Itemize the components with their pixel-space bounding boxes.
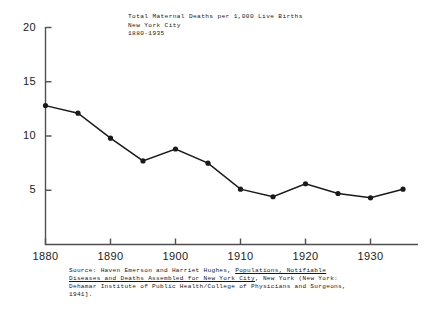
data-point-marker [303, 181, 308, 186]
source-title-part-2: Diseases and Deaths Assembled for New Yo… [69, 275, 255, 282]
source-note: Source: Haven Emerson and Harriet Hughes… [69, 267, 346, 299]
data-point-marker [400, 187, 405, 192]
y-tick-label: 15 [8, 75, 36, 87]
x-tick-label: 1880 [19, 250, 73, 262]
data-point-marker [270, 194, 275, 199]
source-note-line-1: Source: Haven Emerson and Harriet Hughes… [69, 267, 346, 275]
x-tick-label: 1930 [344, 250, 398, 262]
data-point-marker [238, 187, 243, 192]
source-title-part-1: Populations, Notifiable [235, 267, 326, 274]
y-tick-label: 10 [8, 129, 36, 141]
data-point-marker [108, 136, 113, 141]
y-tick-label: 5 [8, 183, 36, 195]
data-point-marker [173, 146, 178, 151]
source-note-line-4: 1941]. [69, 291, 346, 299]
data-point-marker [140, 158, 145, 163]
data-point-marker [205, 161, 210, 166]
source-note-line-2: Diseases and Deaths Assembled for New Yo… [69, 275, 346, 283]
y-axis-ticks [46, 28, 52, 191]
x-tick-label: 1890 [84, 250, 138, 262]
data-series-line [46, 106, 404, 198]
x-tick-label: 1900 [149, 250, 203, 262]
y-tick-label: 20 [8, 21, 36, 33]
data-point-markers [43, 103, 406, 200]
data-point-marker [335, 191, 340, 196]
source-label: Source: Haven Emerson and Harriet Hughes… [69, 267, 235, 274]
data-point-marker [43, 103, 48, 108]
data-point-marker [368, 195, 373, 200]
source-publisher: , New York (New York: [255, 275, 338, 282]
data-point-marker [75, 111, 80, 116]
x-tick-label: 1920 [279, 250, 333, 262]
chart-page: Total Maternal Deaths per 1,000 Live Bir… [0, 0, 431, 314]
x-axis-ticks [46, 239, 371, 245]
source-note-line-3: Dehamar Institute of Public Health/Colle… [69, 283, 346, 291]
x-tick-label: 1910 [214, 250, 268, 262]
